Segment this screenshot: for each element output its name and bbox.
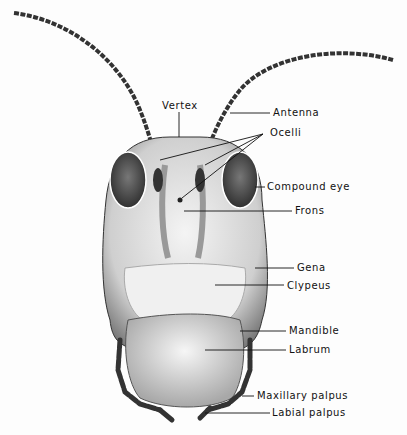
labial-palpus-left xyxy=(160,410,172,420)
label-mandible: Mandible xyxy=(289,325,339,337)
median-ocellus xyxy=(178,198,183,203)
label-clypeus: Clypeus xyxy=(287,280,331,292)
label-antenna: Antenna xyxy=(273,107,319,119)
label-labrum: Labrum xyxy=(289,344,331,356)
label-maxillary-palpus: Maxillary palpus xyxy=(257,390,348,402)
label-vertex: Vertex xyxy=(162,100,198,112)
labrum-shape xyxy=(126,314,244,407)
clypeus-shape xyxy=(124,264,245,319)
compound-eye-left xyxy=(110,152,146,208)
label-frons: Frons xyxy=(295,205,325,217)
head-illustration xyxy=(0,0,407,435)
antenna-left xyxy=(14,13,157,165)
insect-head-diagram: Vertex Antenna Ocelli Compound eye Frons… xyxy=(0,0,407,435)
compound-eye-right xyxy=(222,152,258,208)
label-gena: Gena xyxy=(297,262,326,274)
label-labial-palpus: Labial palpus xyxy=(272,407,346,419)
label-ocelli: Ocelli xyxy=(270,127,301,139)
label-compound-eye: Compound eye xyxy=(267,181,350,193)
